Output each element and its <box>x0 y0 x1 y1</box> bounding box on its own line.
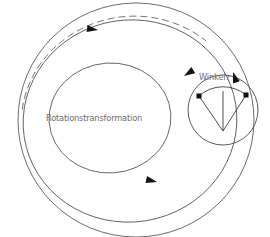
arrow-outer-right <box>230 71 240 84</box>
arrow-middle-bottom <box>145 176 157 185</box>
sector-radius-left <box>199 96 223 131</box>
arrow-middle-right <box>182 67 195 79</box>
rotation-transformation-label: Rotationstransformation <box>46 114 142 122</box>
arrow-outer-top <box>87 25 99 34</box>
dashed-arc <box>14 8 212 109</box>
sector-arc <box>199 87 246 96</box>
angle-symbol: r <box>227 73 230 82</box>
sector-endpoint-left-marker <box>197 94 202 99</box>
sector-endpoint-right-marker <box>244 93 249 98</box>
angle-label: Winkelr <box>199 73 230 82</box>
sector-radius-right <box>223 95 246 131</box>
rotation-transformation-figure: Rotationstransformation Winkelr <box>0 0 270 237</box>
angle-label-text: Winkel <box>199 72 225 82</box>
